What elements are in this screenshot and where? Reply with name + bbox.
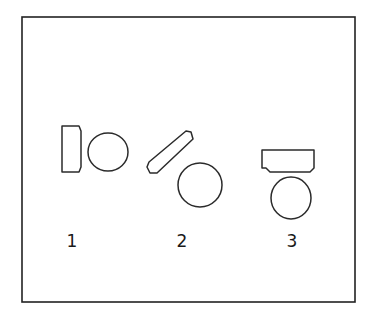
figure-canvas: 1 2 3 bbox=[0, 0, 375, 317]
panel-3-rectangle-shape bbox=[262, 150, 314, 172]
panel-2-label: 2 bbox=[177, 231, 188, 251]
figure-container: 1 2 3 bbox=[0, 0, 375, 317]
panel-3-ellipse-shape bbox=[271, 177, 311, 219]
panel-3-label: 3 bbox=[287, 231, 298, 251]
panel-1-label: 1 bbox=[67, 231, 78, 251]
panel-1-rectangle-shape bbox=[62, 126, 81, 172]
panel-1-circle-shape bbox=[88, 133, 128, 171]
figure-background bbox=[0, 0, 375, 317]
panel-2-circle-shape bbox=[178, 163, 222, 207]
